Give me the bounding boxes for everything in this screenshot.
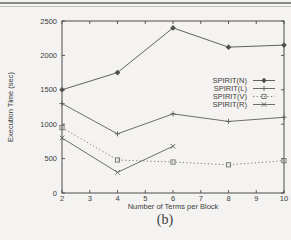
x-tick-label: 10	[280, 194, 288, 203]
marker-spirit-l	[59, 101, 64, 106]
figure-caption: (b)	[157, 212, 174, 228]
y-tick-label: 1000	[40, 120, 57, 129]
marker-spirit-r	[115, 170, 120, 175]
marker-spirit-n	[59, 87, 65, 93]
series-line-spirit-r	[62, 138, 173, 172]
execution-time-chart: 234567891005001000150020002500Number of …	[0, 0, 291, 240]
y-tick-label: 2500	[40, 17, 57, 26]
marker-spirit-l	[170, 111, 175, 116]
legend-marker-spirit-n	[261, 78, 267, 84]
x-tick-label: 8	[226, 194, 230, 203]
plot-border	[62, 21, 284, 193]
x-tick-label: 4	[115, 194, 119, 203]
x-tick-label: 2	[60, 194, 64, 203]
marker-spirit-r	[171, 144, 176, 149]
y-tick-label: 2000	[40, 51, 57, 60]
execution-time-figure: 234567891005001000150020002500Number of …	[0, 0, 291, 240]
y-tick-label: 500	[44, 154, 57, 163]
y-tick-label: 1500	[40, 85, 57, 94]
marker-spirit-n	[281, 42, 287, 48]
y-axis-label: Execution Time (sec)	[6, 71, 15, 142]
marker-spirit-n	[226, 44, 232, 50]
x-axis-label: Number of Terms per Block	[128, 202, 219, 211]
x-tick-label: 3	[88, 194, 92, 203]
paper-figure-panel: 234567891005001000150020002500Number of …	[0, 0, 291, 240]
series-line-spirit-n	[62, 28, 284, 90]
x-tick-label: 9	[254, 194, 258, 203]
legend-label-spirit-r: SPIRIT(R)	[212, 100, 247, 109]
marker-spirit-l	[115, 131, 120, 136]
marker-spirit-l	[226, 119, 231, 124]
marker-spirit-l	[281, 115, 286, 120]
y-tick-label: 0	[53, 189, 57, 198]
series-line-spirit-l	[62, 104, 284, 134]
legend-marker-spirit-l	[261, 86, 266, 91]
